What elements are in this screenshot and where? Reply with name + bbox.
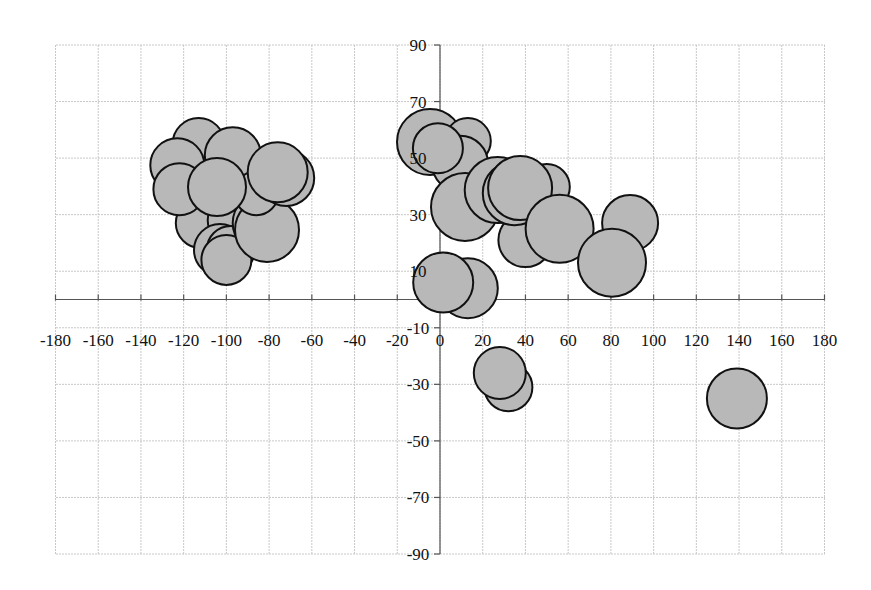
x-tick-label: 20 xyxy=(474,331,491,350)
x-tick-label: 60 xyxy=(560,331,577,350)
y-tick-label: -30 xyxy=(407,375,430,394)
y-tick-label: 90 xyxy=(410,36,427,55)
x-axis-tick-labels: -180-160-140-120-100-80-60-40-2002040608… xyxy=(40,331,837,350)
x-tick-label: -160 xyxy=(83,331,114,350)
y-tick-label: 30 xyxy=(410,206,427,225)
x-tick-label: 140 xyxy=(726,331,752,350)
y-tick-label: -90 xyxy=(407,545,430,564)
x-tick-label: 100 xyxy=(641,331,667,350)
x-tick-label: -60 xyxy=(300,331,323,350)
x-tick-label: 160 xyxy=(769,331,795,350)
x-tick-label: -180 xyxy=(40,331,71,350)
bubble-point xyxy=(474,347,526,399)
x-tick-label: -80 xyxy=(258,331,281,350)
y-tick-label: -70 xyxy=(407,488,430,507)
x-tick-label: 0 xyxy=(436,331,445,350)
x-tick-label: 40 xyxy=(517,331,534,350)
x-tick-label: 180 xyxy=(812,331,838,350)
y-tick-label: 50 xyxy=(410,149,427,168)
bubble-point xyxy=(578,229,646,297)
bubble-series xyxy=(150,109,767,429)
y-tick-label: 70 xyxy=(410,93,427,112)
y-tick-label: -50 xyxy=(407,432,430,451)
x-tick-label: 120 xyxy=(684,331,710,350)
x-tick-label: -100 xyxy=(211,331,242,350)
bubble-point xyxy=(248,142,308,202)
y-tick-label: -10 xyxy=(407,319,430,338)
x-tick-label: -20 xyxy=(386,331,409,350)
bubble-point xyxy=(707,369,767,429)
x-tick-label: -120 xyxy=(168,331,199,350)
x-tick-label: 80 xyxy=(602,331,619,350)
y-tick-label: 10 xyxy=(410,262,427,281)
x-tick-label: -140 xyxy=(125,331,156,350)
x-tick-label: -40 xyxy=(343,331,366,350)
bubble-point xyxy=(188,158,246,216)
bubble-chart: -180-160-140-120-100-80-60-40-2002040608… xyxy=(0,0,871,590)
